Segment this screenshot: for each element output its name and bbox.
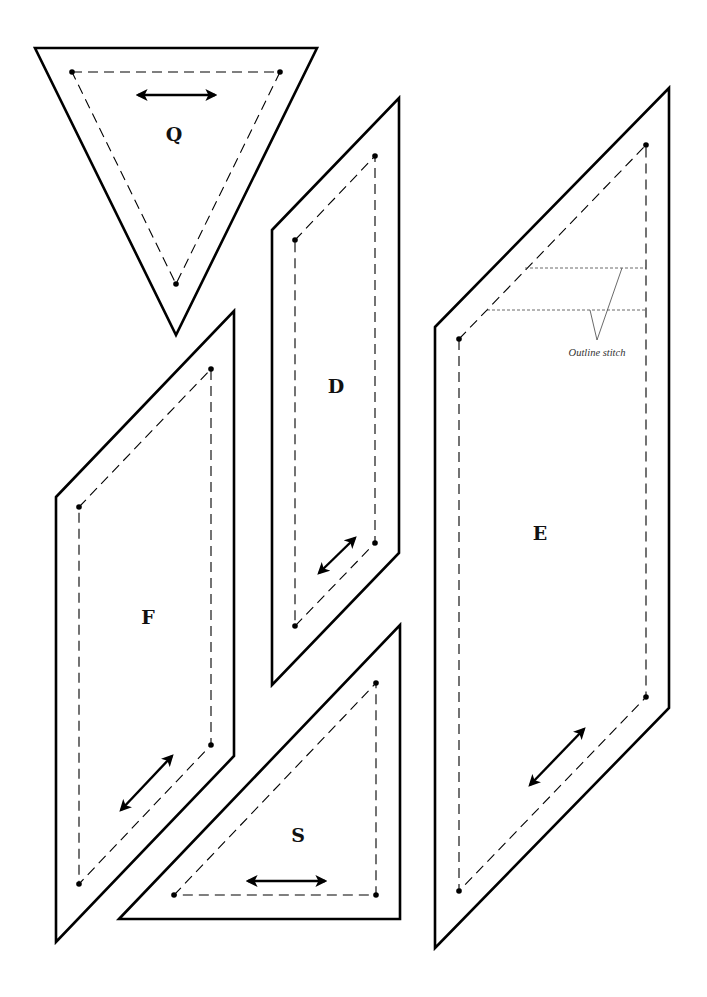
piece-f-label: F bbox=[141, 606, 155, 628]
corner-dot-icon bbox=[173, 281, 179, 287]
piece-d: D bbox=[272, 98, 399, 685]
corner-dot-icon bbox=[277, 69, 283, 75]
piece-s-label: S bbox=[291, 824, 305, 846]
corner-dot-icon bbox=[76, 881, 82, 887]
corner-dot-icon bbox=[373, 892, 379, 898]
corner-dot-icon bbox=[456, 336, 462, 342]
corner-dot-icon bbox=[643, 694, 649, 700]
piece-d-label: D bbox=[328, 375, 344, 397]
pattern-pieces: QDEFS bbox=[35, 48, 669, 948]
corner-dot-icon bbox=[372, 153, 378, 159]
corner-dot-icon bbox=[456, 888, 462, 894]
corner-dot-icon bbox=[372, 540, 378, 546]
piece-e-label: E bbox=[533, 522, 547, 544]
outline-stitch-label: Outline stitch bbox=[569, 347, 626, 358]
corner-dot-icon bbox=[208, 366, 214, 372]
piece-e: E bbox=[435, 88, 669, 948]
corner-dot-icon bbox=[69, 69, 75, 75]
corner-dot-icon bbox=[643, 142, 649, 148]
corner-dot-icon bbox=[292, 237, 298, 243]
corner-dot-icon bbox=[171, 892, 177, 898]
corner-dot-icon bbox=[76, 504, 82, 510]
piece-e-cut-line bbox=[435, 88, 669, 948]
corner-dot-icon bbox=[208, 742, 214, 748]
corner-dot-icon bbox=[292, 623, 298, 629]
piece-q-label: Q bbox=[166, 123, 183, 145]
corner-dot-icon bbox=[373, 680, 379, 686]
pattern-diagram: QDEFS Outline stitch bbox=[0, 0, 707, 997]
